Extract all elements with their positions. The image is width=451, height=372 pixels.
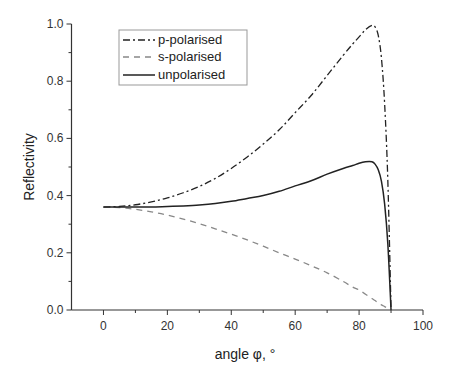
y-tick-label: 0.8 <box>47 74 64 88</box>
x-tick-label: 80 <box>352 319 366 333</box>
y-tick-label: 0.0 <box>47 303 64 317</box>
legend-label-p: p-polarised <box>158 32 222 47</box>
x-tick-label: 60 <box>289 319 303 333</box>
x-tick-label: 20 <box>161 319 175 333</box>
x-tick-label: 40 <box>225 319 239 333</box>
reflectivity-chart: 0204060801000.00.20.40.60.81.0 angle φ, … <box>0 0 451 372</box>
x-tick-label: 0 <box>100 319 107 333</box>
y-tick-label: 0.2 <box>47 246 64 260</box>
x-tick-label: 100 <box>413 319 433 333</box>
y-tick-label: 1.0 <box>47 17 64 31</box>
unpolarised-line <box>103 162 391 310</box>
legend: p-polarised s-polarised unpolarised <box>119 30 247 85</box>
s-polarised-line <box>103 207 391 310</box>
legend-label-unpolarised: unpolarised <box>158 67 225 82</box>
y-tick-label: 0.4 <box>47 189 64 203</box>
y-tick-label: 0.6 <box>47 131 64 145</box>
y-axis-label: Reflectivity <box>21 133 37 201</box>
legend-label-s: s-polarised <box>158 49 222 64</box>
x-axis-label: angle φ, ° <box>215 346 276 362</box>
